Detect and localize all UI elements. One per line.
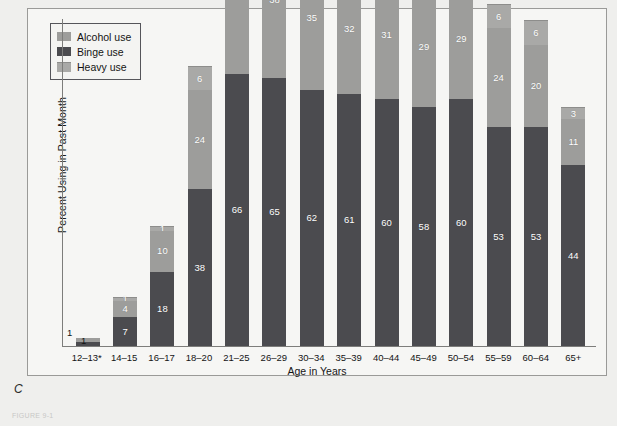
bar-segment-value: 58 [419,222,430,232]
bar-group: 147 [106,19,143,346]
bar-segment-value: 6 [533,28,538,38]
bar-stack[interactable]: 62438 [188,66,212,347]
bar-segment-value: 7 [122,327,127,337]
bar-segment-binge-use: 53 [487,127,511,346]
bar-stack[interactable]: 93865 [262,0,286,346]
bar-segment-value: 62 [307,213,318,223]
bar-segment-alcohol-use: 42 [225,0,249,74]
bar-segment-value: 66 [232,205,243,215]
bar-segment-binge-use: 38 [188,189,212,346]
chart-panel: Percent Using in Past Month Alcohol use … [27,8,607,376]
bar-segment-heavy-use: 6 [487,4,511,29]
x-axis-tick-labels: 12–13*14–1516–1718–2021–2526–2930–3435–3… [62,352,596,363]
bar-stack[interactable] [76,338,100,346]
bar-segment-value: 32 [344,24,355,34]
bar-segment-value: 18 [157,304,168,314]
bar-segment-value: 6 [496,12,501,22]
x-axis-tick-label: 26–29 [255,352,292,363]
bar-segment-value: 60 [381,218,392,228]
x-axis-tick-label: 55–59 [480,352,517,363]
bar-group: 83261 [331,19,368,346]
figure-caption: FIGURE 9-1 [12,412,54,419]
x-axis-tick-label: 40–44 [367,352,404,363]
bar-group: 72960 [443,19,480,346]
bar-group: 31144 [555,19,592,346]
x-axis-tick-label: 50–54 [442,352,479,363]
bar-segment-value: 3 [571,109,576,119]
bar-segment-binge-use: 62 [300,90,324,346]
bar-segment-alcohol-use: 38 [262,0,286,78]
bar-segment-value: 38 [194,263,205,273]
x-axis-tick-label: 35–39 [330,352,367,363]
bar-group: 93865 [256,19,293,346]
bar-external-value-binge: 1 [81,336,86,346]
bar-segment-value: 29 [456,34,467,44]
x-axis-tick-label: 18–20 [180,352,217,363]
bar-stack[interactable]: 83261 [337,0,361,346]
bar-stack[interactable]: 93562 [300,0,324,346]
bar-stack[interactable]: 114266 [225,0,249,346]
bar-segment-binge-use: 60 [449,99,473,347]
bar-segment-alcohol-use: 20 [524,45,548,128]
bar-segment-alcohol-use: 24 [487,28,511,127]
x-axis-tick-label: 30–34 [293,352,330,363]
bar-segment-value: 61 [344,215,355,225]
bar-segment-binge-use: 61 [337,94,361,346]
bar-segment-alcohol-use: 29 [449,0,473,99]
bar-segment-alcohol-use: 32 [337,0,361,94]
bar-segment-alcohol-use: 31 [375,0,399,99]
bar-segment-alcohol-use: 11 [561,119,585,164]
bar-segment-alcohol-use: 10 [150,231,174,272]
bar-segment-alcohol-use: 35 [300,0,324,90]
x-axis-tick-label: 14–15 [105,352,142,363]
bar-segment-value: 38 [269,0,280,4]
bar-stack[interactable]: 73160 [375,0,399,346]
bar-segment-value: 44 [568,251,579,261]
bar-group: 62453 [480,19,517,346]
bars-layer: 1114711018624381142669386593562832617316… [63,19,596,346]
bar-group: 72958 [405,19,442,346]
bar-segment-value: 20 [531,81,542,91]
bar-segment-alcohol-use: 29 [412,0,436,107]
panel-letter: C [14,382,23,396]
bar-segment-binge-use: 58 [412,107,436,346]
bar-group: 11 [69,19,106,346]
bar-segment-binge-use: 60 [375,99,399,347]
bar-segment-binge-use: 7 [113,317,137,346]
bar-segment-value: 4 [122,304,127,314]
bar-segment-value: 24 [493,73,504,83]
x-axis-title: Age in Years [28,365,606,377]
bar-group: 62438 [181,19,218,346]
bar-segment-binge-use: 53 [524,127,548,346]
bar-stack[interactable]: 31144 [561,107,585,346]
bar-segment-alcohol-use: 24 [188,90,212,189]
bar-segment-heavy-use: 3 [561,107,585,119]
bar-segment-binge-use: 44 [561,165,585,347]
bar-group: 114266 [218,19,255,346]
x-axis-tick-label: 12–13* [68,352,105,363]
bar-segment-value: 35 [307,13,318,23]
x-axis-tick-label: 45–49 [405,352,442,363]
bar-segment-value: 29 [419,42,430,52]
x-axis-tick-label: 16–17 [143,352,180,363]
bar-stack[interactable]: 72960 [449,0,473,346]
bar-group: 11018 [144,19,181,346]
bar-stack[interactable]: 72958 [412,0,436,346]
bar-segment-value: 60 [456,218,467,228]
figure-root: Percent Using in Past Month Alcohol use … [0,0,617,426]
bar-segment-value: 53 [493,232,504,242]
bar-stack[interactable]: 11018 [150,226,174,346]
bar-stack[interactable]: 147 [113,297,137,346]
bar-segment-value: 24 [194,135,205,145]
x-axis-tick-label: 65+ [554,352,591,363]
x-axis-tick-label: 60–64 [517,352,554,363]
bar-external-value-alcohol: 1 [67,328,72,338]
bar-stack[interactable]: 62453 [487,4,511,346]
bar-segment-binge-use: 66 [225,74,249,346]
bar-segment-binge-use [76,342,100,346]
bar-stack[interactable]: 62053 [524,20,548,346]
bar-segment-value: 10 [157,246,168,256]
bar-segment-heavy-use: 6 [188,66,212,91]
bar-segment-heavy-use: 6 [524,20,548,45]
plot-area: 1114711018624381142669386593562832617316… [62,19,596,347]
